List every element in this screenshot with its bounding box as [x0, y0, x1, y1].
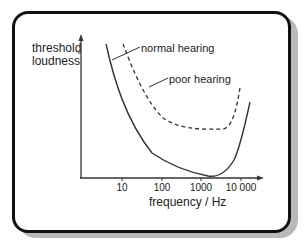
- x-tick-label-10: 10: [116, 182, 127, 194]
- normal-hearing-leader: [112, 47, 140, 60]
- y-axis-label-line2: loudness: [32, 55, 81, 68]
- normal-hearing-curve: [106, 44, 250, 176]
- x-axis-arrow-icon: [257, 176, 264, 181]
- poor-hearing-curve: [123, 44, 240, 129]
- x-tick-label-10000: 10 000: [226, 182, 257, 194]
- x-tick-label-1000: 1000: [190, 182, 212, 194]
- y-axis-label: threshold loudness: [32, 42, 81, 68]
- x-axis-label: frequency / Hz: [149, 196, 226, 208]
- normal-hearing-label: normal hearing: [141, 42, 214, 54]
- x-tick-label-100: 100: [154, 182, 171, 194]
- poor-hearing-label: poor hearing: [169, 73, 231, 85]
- poor-hearing-leader: [149, 78, 168, 87]
- y-axis-arrow-icon: [79, 34, 84, 41]
